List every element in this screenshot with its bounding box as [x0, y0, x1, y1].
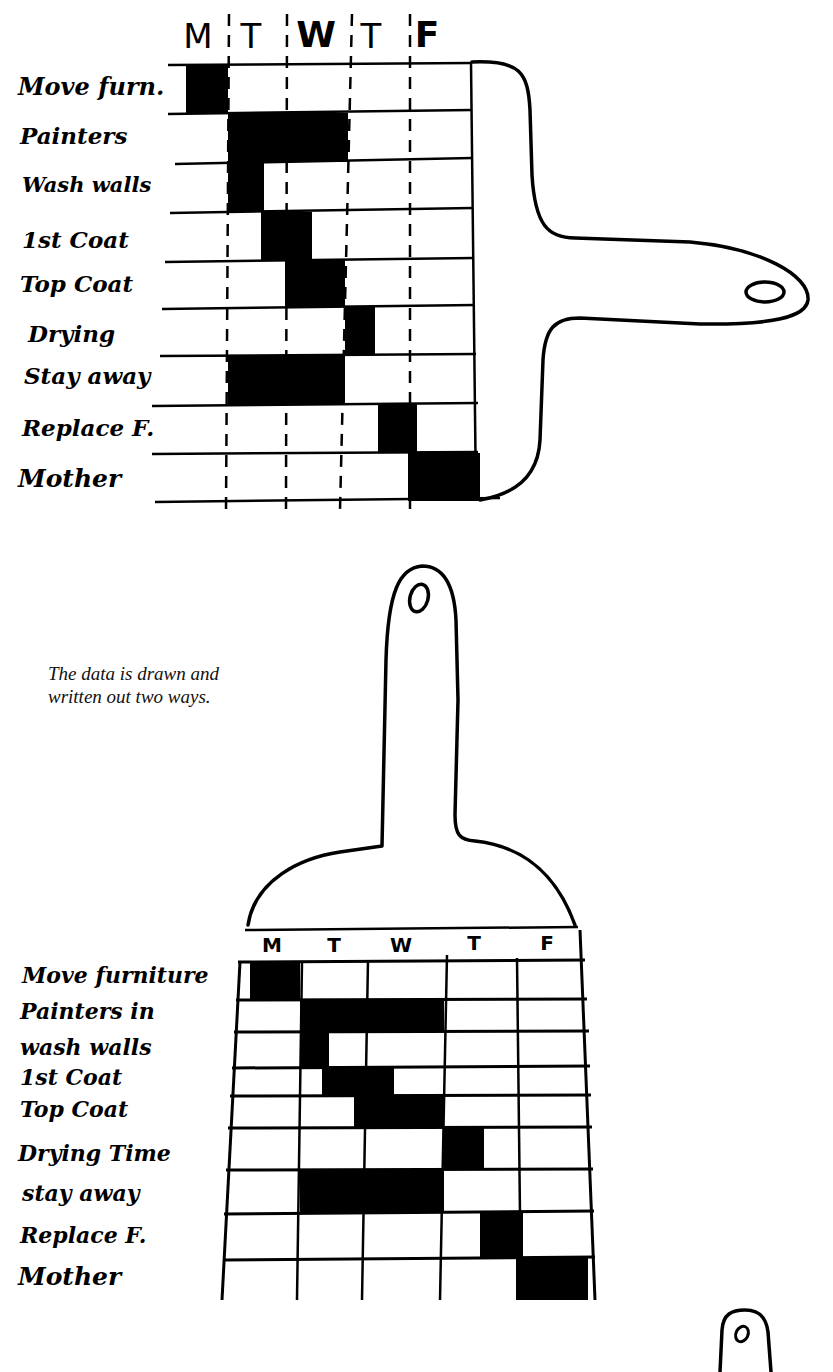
- gantt-block: [300, 1000, 444, 1031]
- day-header-thursday: T: [462, 931, 486, 955]
- gantt-block: [322, 1067, 394, 1095]
- gantt-block: [300, 1169, 444, 1212]
- row-label: Move furniture: [22, 962, 209, 988]
- gantt-block: [250, 961, 300, 1000]
- day-header-tuesday: T: [322, 933, 346, 957]
- gantt-block: [354, 1095, 444, 1128]
- day-header-monday: M: [260, 933, 284, 957]
- gantt-block: [444, 1128, 484, 1169]
- day-header-wednesday: W: [387, 933, 415, 957]
- row-label: stay away: [22, 1180, 139, 1206]
- gantt-block: [300, 1031, 329, 1067]
- row-label: 1st Coat: [20, 1064, 122, 1090]
- row-label: Mother: [18, 1262, 121, 1291]
- handle-hole-icon: [407, 582, 432, 614]
- gantt-block: [516, 1258, 588, 1300]
- row-label: wash walls: [20, 1034, 152, 1060]
- row-label: Replace F.: [20, 1222, 146, 1248]
- gantt-block: [480, 1212, 523, 1258]
- day-header-friday: F: [535, 931, 559, 955]
- brush-outline-vertical: [0, 0, 833, 1372]
- row-label: Drying Time: [18, 1140, 171, 1166]
- row-label: Painters in: [20, 998, 155, 1024]
- row-label: Top Coat: [20, 1096, 128, 1122]
